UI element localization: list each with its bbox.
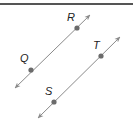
label-r: R bbox=[67, 11, 75, 23]
line-st bbox=[38, 37, 120, 118]
label-t: T bbox=[93, 39, 101, 51]
label-s: S bbox=[45, 85, 53, 97]
point-r bbox=[74, 25, 79, 30]
point-q bbox=[28, 67, 33, 72]
point-s bbox=[51, 99, 56, 104]
label-q: Q bbox=[20, 52, 29, 64]
parallel-lines-diagram: R Q T S bbox=[0, 0, 133, 123]
point-t bbox=[98, 53, 103, 58]
